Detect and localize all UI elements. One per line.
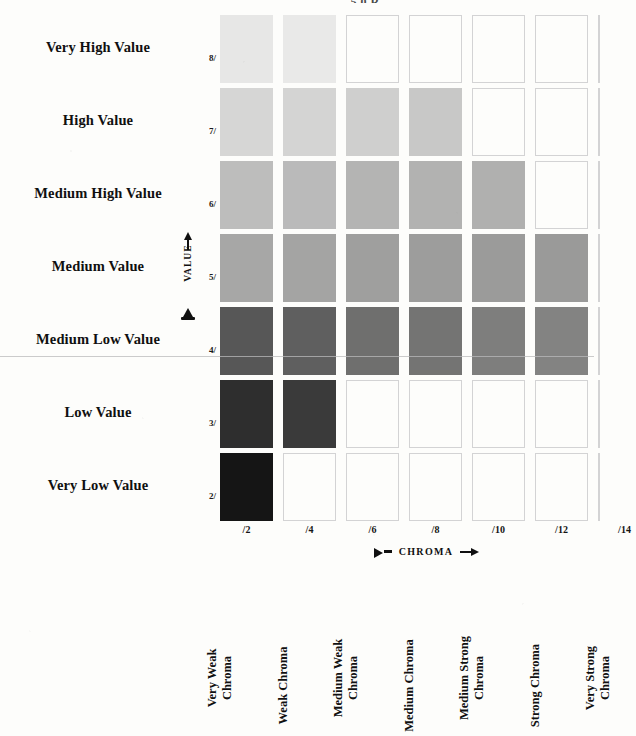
chroma-column-name-text: Very Strong Chroma — [583, 624, 613, 732]
color-swatch — [346, 161, 399, 229]
value-row-label: Medium Low Value — [0, 331, 196, 348]
color-swatch — [220, 380, 273, 448]
chroma-arrow-right-icon — [471, 548, 479, 556]
page-caption-text: 5.0 R — [350, 0, 379, 3]
color-swatch — [598, 234, 600, 302]
color-swatch — [472, 15, 525, 83]
color-swatch — [283, 234, 336, 302]
color-swatch — [283, 453, 336, 521]
color-swatch — [535, 88, 588, 156]
value-arrow-low-icon — [183, 308, 193, 317]
value-row-label: Low Value — [0, 404, 196, 421]
color-swatch — [409, 88, 462, 156]
color-swatch — [472, 234, 525, 302]
color-swatch — [283, 161, 336, 229]
color-swatch — [346, 15, 399, 83]
color-swatch — [598, 88, 600, 156]
chroma-column-name-text: Very Weak Chroma — [205, 624, 235, 732]
color-swatch — [472, 307, 525, 375]
color-swatch — [409, 15, 462, 83]
color-swatch — [409, 234, 462, 302]
value-row-label: High Value — [0, 112, 196, 129]
color-swatch — [409, 161, 462, 229]
color-swatch — [220, 307, 273, 375]
color-swatch — [346, 88, 399, 156]
color-swatch — [220, 453, 273, 521]
chroma-column-name-text: Weak Chroma — [276, 632, 291, 736]
color-swatch — [598, 161, 600, 229]
value-axis: VALUE — [178, 232, 198, 324]
chroma-column-name-text: Medium Weak Chroma — [331, 624, 361, 732]
color-swatch — [220, 161, 273, 229]
value-tick-label: 2/ — [198, 491, 216, 501]
color-swatch — [283, 88, 336, 156]
color-swatch — [346, 307, 399, 375]
color-swatch — [472, 380, 525, 448]
chroma-column-name: Medium Weak Chroma — [346, 575, 399, 683]
value-row-label: Very High Value — [0, 39, 196, 56]
color-swatch — [283, 307, 336, 375]
chroma-arrow-left-bar — [384, 550, 392, 553]
value-tick-label: 4/ — [198, 345, 216, 355]
chroma-column-name-text: Medium Strong Chroma — [457, 624, 487, 732]
color-swatch — [472, 161, 525, 229]
color-swatch — [535, 161, 588, 229]
color-swatch — [535, 380, 588, 448]
value-tick-label: 6/ — [198, 199, 216, 209]
chroma-tick-label: /14 — [598, 524, 636, 535]
color-swatch — [346, 453, 399, 521]
color-swatch — [535, 15, 588, 83]
color-swatch — [472, 453, 525, 521]
horizontal-rule — [0, 356, 594, 357]
chroma-axis-label: CHROMA — [399, 546, 453, 557]
color-swatch — [535, 234, 588, 302]
color-swatch — [598, 307, 600, 375]
value-row-label: Very Low Value — [0, 477, 196, 494]
color-swatch — [220, 234, 273, 302]
color-swatch — [409, 307, 462, 375]
color-swatch — [598, 453, 600, 521]
page-caption: 5.0 R — [0, 0, 594, 3]
chroma-axis: CHROMA — [0, 541, 594, 557]
value-arrow-tail — [181, 317, 195, 320]
value-row-label: Medium High Value — [0, 185, 196, 202]
color-swatch — [346, 380, 399, 448]
chroma-column-name: Medium Strong Chroma — [472, 575, 525, 683]
color-swatch — [346, 234, 399, 302]
chroma-column-name: Very Strong Chroma — [598, 575, 636, 683]
chroma-tick-label: /4 — [283, 524, 336, 535]
chroma-column-name-text: Strong Chroma — [528, 632, 543, 736]
chroma-tick-label: /10 — [472, 524, 525, 535]
value-tick-label: 7/ — [198, 126, 216, 136]
value-tick-label: 3/ — [198, 418, 216, 428]
chroma-tick-label: /2 — [220, 524, 273, 535]
color-swatch — [283, 380, 336, 448]
chroma-arrow-left-icon — [374, 548, 383, 558]
chroma-column-name: Very Weak Chroma — [220, 575, 273, 683]
color-swatch — [409, 380, 462, 448]
color-swatch — [220, 88, 273, 156]
color-swatch — [535, 307, 588, 375]
color-swatch — [598, 380, 600, 448]
color-swatch — [535, 453, 588, 521]
chroma-column-name-text: Medium Chroma — [402, 632, 417, 736]
value-row-label: Medium Value — [0, 258, 196, 275]
chroma-tick-label: /12 — [535, 524, 588, 535]
chroma-column-name: Medium Chroma — [409, 575, 462, 683]
chroma-column-name: Strong Chroma — [535, 575, 588, 683]
color-swatch — [283, 15, 336, 83]
value-tick-label: 8/ — [198, 53, 216, 63]
chroma-tick-label: /6 — [346, 524, 399, 535]
value-axis-label: VALUE — [183, 239, 193, 287]
color-swatch — [409, 453, 462, 521]
chroma-column-name: Weak Chroma — [283, 575, 336, 683]
color-swatch — [472, 88, 525, 156]
color-swatch — [598, 15, 600, 83]
chroma-tick-label: /8 — [409, 524, 462, 535]
color-swatch — [220, 15, 273, 83]
value-tick-label: 5/ — [198, 272, 216, 282]
